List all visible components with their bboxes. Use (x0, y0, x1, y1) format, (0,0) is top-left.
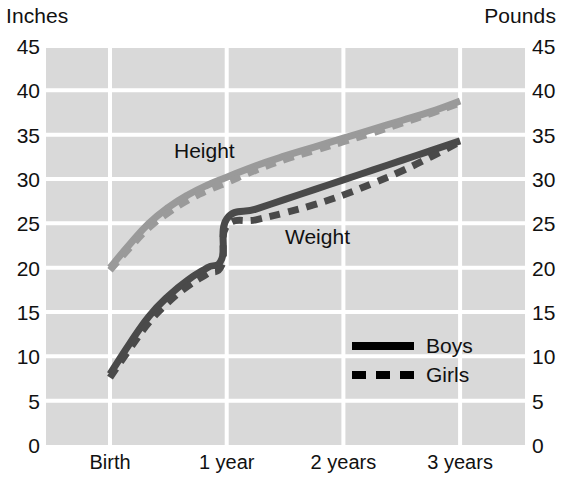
right-tick-40: 40 (532, 80, 562, 101)
height-series-annotation: Height (174, 139, 235, 163)
x-tick-3-years: 3 years (427, 452, 493, 472)
right-tick-5: 5 (532, 391, 562, 412)
left-axis-title: Inches (6, 4, 68, 28)
left-tick-30: 30 (0, 169, 40, 190)
left-tick-0: 0 (0, 435, 40, 456)
left-tick-35: 35 (0, 125, 40, 146)
legend: Boys Girls (352, 331, 502, 389)
x-tick-1-year: 1 year (199, 452, 255, 472)
left-tick-15: 15 (0, 302, 40, 323)
right-tick-45: 45 (532, 36, 562, 57)
legend-item-girls: Girls (352, 360, 502, 389)
right-tick-20: 20 (532, 258, 562, 279)
left-tick-20: 20 (0, 258, 40, 279)
legend-swatch-dashed-icon (352, 371, 414, 379)
legend-label-girls: Girls (426, 364, 469, 385)
legend-label-boys: Boys (426, 335, 473, 356)
left-tick-45: 45 (0, 36, 40, 57)
legend-swatch-solid-icon (352, 342, 414, 350)
growth-chart: Inches Pounds 454035302520151050 4540353… (0, 0, 562, 478)
left-tick-40: 40 (0, 80, 40, 101)
right-tick-0: 0 (532, 435, 562, 456)
weight-series-annotation: Weight (285, 225, 350, 249)
right-tick-30: 30 (532, 169, 562, 190)
x-tick-2-years: 2 years (311, 452, 377, 472)
right-axis-title: Pounds (484, 4, 556, 28)
legend-item-boys: Boys (352, 331, 502, 360)
right-tick-35: 35 (532, 125, 562, 146)
plot-area (0, 0, 562, 478)
right-tick-10: 10 (532, 346, 562, 367)
x-tick-birth: Birth (89, 452, 130, 472)
left-tick-25: 25 (0, 213, 40, 234)
left-tick-5: 5 (0, 391, 40, 412)
right-tick-25: 25 (532, 213, 562, 234)
left-tick-10: 10 (0, 346, 40, 367)
right-tick-15: 15 (532, 302, 562, 323)
